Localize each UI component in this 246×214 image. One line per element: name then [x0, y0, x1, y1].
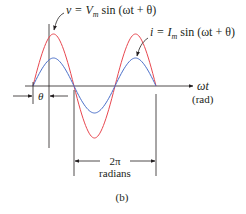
current-curve	[33, 58, 156, 113]
period-label: 2π	[109, 155, 121, 167]
figure-caption: (b)	[116, 191, 129, 204]
phase-label: θ	[38, 90, 44, 102]
period-unit: radians	[99, 167, 131, 179]
x-axis-unit: (rad)	[192, 93, 214, 106]
voltage-pointer-arrow	[54, 13, 64, 30]
current-equation: i = Im sin (ωt + θ)	[150, 25, 235, 41]
voltage-equation: v = Vm sin (ωt + θ)	[66, 3, 156, 19]
x-axis-label: ωt	[197, 79, 209, 93]
sine-diagram: v = Vm sin (ωt + θ) i = Im sin (ωt + θ) …	[0, 0, 246, 214]
